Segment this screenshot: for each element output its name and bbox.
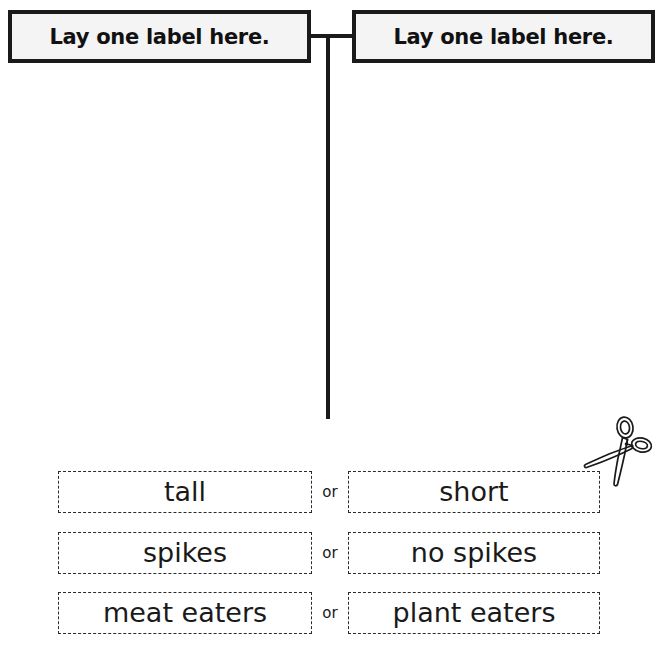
cut-out-card-left[interactable]: tall xyxy=(58,471,312,513)
cut-out-card-left-text: tall xyxy=(164,478,206,505)
connector-horizontal-line xyxy=(307,34,356,38)
or-separator: or xyxy=(312,485,348,500)
worksheet-page: Lay one label here. Lay one label here. xyxy=(0,0,661,660)
label-drop-box-right[interactable]: Lay one label here. xyxy=(352,10,655,63)
cut-out-card-right[interactable]: plant eaters xyxy=(348,592,600,634)
cut-out-card-right[interactable]: short xyxy=(348,471,600,513)
cut-out-card-left[interactable]: meat eaters xyxy=(58,592,312,634)
cut-out-card-left[interactable]: spikes xyxy=(58,532,312,574)
cut-out-card-right-text: plant eaters xyxy=(393,599,556,626)
choice-row: meat eaters or plant eaters xyxy=(58,592,600,634)
cut-out-card-right[interactable]: no spikes xyxy=(348,532,600,574)
cut-out-card-left-text: spikes xyxy=(143,539,227,566)
cut-out-card-left-text: meat eaters xyxy=(103,599,267,626)
cut-out-card-right-text: short xyxy=(439,478,508,505)
label-drop-box-left[interactable]: Lay one label here. xyxy=(8,10,311,63)
label-drop-box-right-text: Lay one label here. xyxy=(393,25,613,49)
or-separator: or xyxy=(312,606,348,621)
choice-row: spikes or no spikes xyxy=(58,532,600,574)
or-separator: or xyxy=(312,546,348,561)
choice-row: tall or short xyxy=(58,471,600,513)
connector-vertical-line xyxy=(326,34,330,419)
cut-out-card-right-text: no spikes xyxy=(411,539,537,566)
label-drop-box-left-text: Lay one label here. xyxy=(49,25,269,49)
